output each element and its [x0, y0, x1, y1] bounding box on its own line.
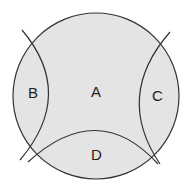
label-c: C	[152, 87, 163, 104]
region-diagram: B A C D	[0, 0, 189, 184]
label-d: D	[91, 146, 102, 163]
label-b: B	[28, 84, 38, 101]
label-a: A	[91, 83, 101, 100]
diagram-svg: B A C D	[0, 0, 189, 184]
